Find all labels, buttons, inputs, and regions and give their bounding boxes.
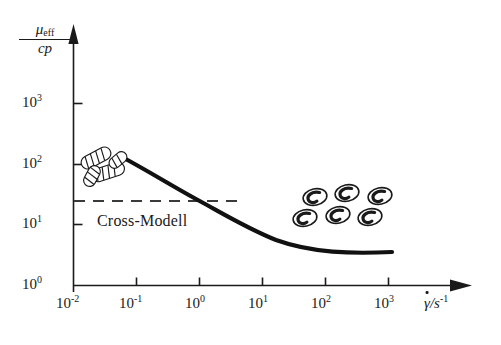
x-tick-label-100: 102 [311,296,331,311]
cross-model-annotation: Cross-Modell [97,212,187,230]
x-tick-label-1: 100 [185,296,205,311]
y-tick-label-10: 101 [22,216,42,231]
x-tick-label-10: 101 [248,296,268,311]
y-tick-label-1: 100 [22,277,42,292]
gamma-overdot [426,291,429,294]
y-tick-label-1000: 103 [22,95,42,110]
mu-subscript: eff [43,27,54,38]
x-tick-label-0.01: 10-2 [56,296,79,311]
gamma-dot-symbol: γ [424,296,430,311]
x-tick-label-0.1: 10-1 [119,296,142,311]
y-axis-denominator: cp [17,41,73,57]
y-axis-title: μeff cp [17,22,73,57]
x-axis-title: γ/s-1 [424,296,448,311]
x-tick-label-1000: 103 [374,296,394,311]
y-axis-numerator: μeff [17,22,73,38]
y-tick-label-100: 102 [22,156,42,171]
